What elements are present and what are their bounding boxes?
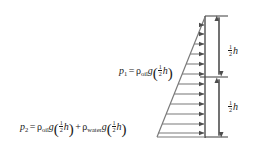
p2-fraction-denominator-2: 2 bbox=[112, 127, 116, 133]
p2-paren-close-2: ) bbox=[122, 121, 127, 137]
p2-paren-close-1: ) bbox=[69, 121, 74, 137]
p2-equals: = bbox=[28, 121, 37, 132]
pressure-distribution-figure: p1=ρoilg(12h) p2=ρoilg(12h)+ρwaterg(12h)… bbox=[0, 0, 269, 160]
p2-rho-water-subscript: water bbox=[87, 126, 101, 133]
equation-p2: p2=ρoilg(12h)+ρwaterg(12h) bbox=[20, 120, 127, 137]
dimension-label-top: 12h bbox=[228, 44, 238, 58]
p1-fraction-denominator: 2 bbox=[158, 71, 162, 77]
dimension-bottom-symbol: h bbox=[233, 101, 238, 112]
p1-equals: = bbox=[127, 65, 136, 76]
dimension-bottom-denominator: 2 bbox=[228, 107, 232, 113]
dimension-label-bottom: 12h bbox=[228, 100, 238, 114]
p2-rho-oil-subscript: oil bbox=[42, 126, 49, 133]
p2-plus-sign: + bbox=[74, 121, 83, 132]
equation-p1: p1=ρoilg(12h) bbox=[119, 64, 173, 81]
dimension-top-denominator: 2 bbox=[228, 51, 232, 57]
dimension-top-symbol: h bbox=[233, 45, 238, 56]
p1-paren-close: ) bbox=[168, 65, 173, 81]
p2-fraction-denominator-1: 2 bbox=[59, 127, 63, 133]
p1-rho-oil-subscript: oil bbox=[141, 70, 148, 77]
